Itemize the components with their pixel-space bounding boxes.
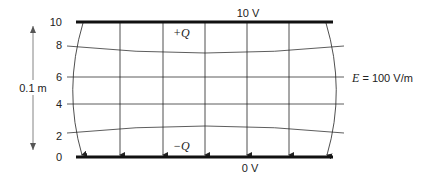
bottom-plate-voltage: 0 V xyxy=(242,162,259,174)
separation-scale: 0.1 m xyxy=(19,26,47,150)
top-plate-charge: +Q xyxy=(173,26,190,40)
potential-ticks: 10 8 6 4 2 0 xyxy=(50,16,62,163)
capacitor-field-diagram: 0.1 m 10 8 6 4 2 0 10 V 0 V +Q −Q E = 10… xyxy=(0,0,430,176)
bottom-plate-charge: −Q xyxy=(173,139,190,153)
field-strength-label: E = 100 V/m xyxy=(351,71,413,85)
equipotential-8 xyxy=(67,46,344,53)
field-value: = 100 V/m xyxy=(359,72,413,84)
equipotential-lines xyxy=(67,46,344,133)
field-line-fringe-right xyxy=(326,23,336,155)
tick-4: 4 xyxy=(56,98,62,110)
tick-6: 6 xyxy=(56,71,62,83)
tick-2: 2 xyxy=(56,130,62,142)
field-lines xyxy=(73,23,337,155)
field-line-fringe-left xyxy=(73,23,83,155)
tick-10: 10 xyxy=(50,16,62,28)
equipotential-2 xyxy=(67,126,344,133)
top-plate-voltage: 10 V xyxy=(237,7,260,19)
separation-label: 0.1 m xyxy=(19,82,47,94)
tick-0: 0 xyxy=(56,151,62,163)
tick-8: 8 xyxy=(56,39,62,51)
